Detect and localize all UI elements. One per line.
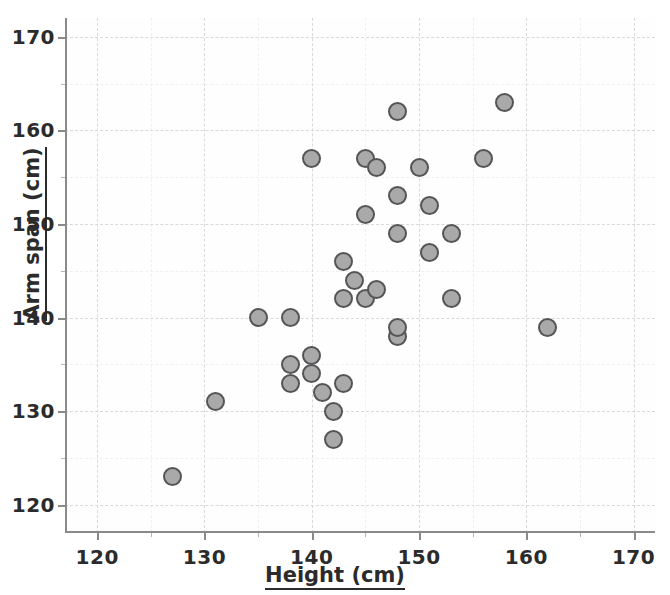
data-point bbox=[474, 149, 493, 168]
y-tick-minor bbox=[61, 458, 65, 459]
y-axis-title-text: Arm span (cm) bbox=[20, 147, 47, 320]
gridline-minor-horizontal bbox=[65, 364, 655, 365]
data-point bbox=[420, 196, 439, 215]
x-tick-major bbox=[526, 533, 528, 540]
gridline-minor-vertical bbox=[151, 18, 152, 533]
y-axis-title: Arm span (cm) bbox=[20, 84, 44, 384]
gridline-minor-vertical bbox=[365, 18, 366, 533]
data-point bbox=[442, 289, 461, 308]
plot-area bbox=[65, 18, 655, 533]
data-point bbox=[206, 392, 225, 411]
x-tick-minor bbox=[473, 533, 474, 537]
gridline-minor-vertical bbox=[580, 18, 581, 533]
x-axis-title-text: Height (cm) bbox=[265, 563, 405, 590]
gridline-major-vertical bbox=[526, 18, 527, 533]
x-axis-line bbox=[65, 531, 655, 533]
gridline-major-vertical bbox=[419, 18, 420, 533]
gridline-major-horizontal bbox=[65, 37, 655, 38]
x-tick-minor bbox=[365, 533, 366, 537]
y-tick-minor bbox=[61, 177, 65, 178]
y-tick-minor bbox=[61, 84, 65, 85]
x-tick-major bbox=[204, 533, 206, 540]
data-point bbox=[163, 467, 182, 486]
gridline-minor-horizontal bbox=[65, 271, 655, 272]
y-tick-minor bbox=[61, 364, 65, 365]
gridline-major-horizontal bbox=[65, 130, 655, 131]
data-point bbox=[388, 318, 407, 337]
data-point bbox=[420, 243, 439, 262]
data-point bbox=[281, 355, 300, 374]
data-point bbox=[538, 318, 557, 337]
data-point bbox=[345, 271, 364, 290]
gridline-minor-vertical bbox=[473, 18, 474, 533]
y-tick-label: 130 bbox=[3, 399, 55, 423]
y-tick-minor bbox=[61, 271, 65, 272]
data-point bbox=[302, 346, 321, 365]
gridline-minor-vertical bbox=[258, 18, 259, 533]
x-tick-minor bbox=[580, 533, 581, 537]
gridline-major-horizontal bbox=[65, 224, 655, 225]
gridline-major-vertical bbox=[204, 18, 205, 533]
data-point bbox=[324, 402, 343, 421]
gridline-minor-horizontal bbox=[65, 458, 655, 459]
x-axis-title: Height (cm) bbox=[0, 563, 670, 587]
data-point bbox=[495, 93, 514, 112]
data-point bbox=[249, 308, 268, 327]
x-tick-major bbox=[312, 533, 314, 540]
data-point bbox=[281, 374, 300, 393]
y-tick-label: 120 bbox=[3, 493, 55, 517]
y-tick-major bbox=[58, 318, 65, 320]
y-tick-label: 170 bbox=[3, 25, 55, 49]
y-tick-major bbox=[58, 224, 65, 226]
x-tick-major bbox=[419, 533, 421, 540]
data-point bbox=[313, 383, 332, 402]
gridline-major-vertical bbox=[312, 18, 313, 533]
x-tick-major bbox=[97, 533, 99, 540]
y-tick-major bbox=[58, 411, 65, 413]
gridline-major-horizontal bbox=[65, 505, 655, 506]
x-tick-major bbox=[634, 533, 636, 540]
x-tick-minor bbox=[151, 533, 152, 537]
data-point bbox=[442, 224, 461, 243]
gridline-minor-horizontal bbox=[65, 177, 655, 178]
data-point bbox=[410, 158, 429, 177]
gridline-major-horizontal bbox=[65, 318, 655, 319]
y-tick-major bbox=[58, 505, 65, 507]
gridline-minor-horizontal bbox=[65, 84, 655, 85]
data-point bbox=[324, 430, 343, 449]
scatter-plot-figure: 120130140150160170 120130140150160170 Ar… bbox=[0, 0, 670, 595]
y-axis-line bbox=[65, 18, 67, 533]
data-point bbox=[334, 374, 353, 393]
y-tick-major bbox=[58, 37, 65, 39]
data-point bbox=[367, 280, 386, 299]
gridline-major-vertical bbox=[634, 18, 635, 533]
y-tick-major bbox=[58, 130, 65, 132]
gridline-major-horizontal bbox=[65, 411, 655, 412]
data-point bbox=[367, 158, 386, 177]
gridline-major-vertical bbox=[97, 18, 98, 533]
data-point bbox=[281, 308, 300, 327]
data-point bbox=[356, 205, 375, 224]
x-tick-minor bbox=[258, 533, 259, 537]
data-point bbox=[388, 224, 407, 243]
